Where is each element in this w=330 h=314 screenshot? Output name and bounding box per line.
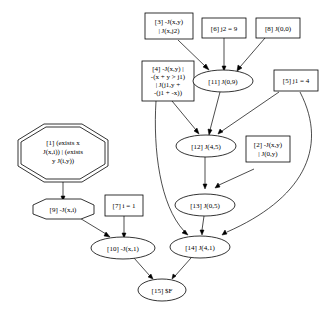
- node-9[interactable]: [9] -J(x,i): [33, 199, 94, 219]
- arrowhead-icon: [172, 274, 176, 279]
- node-2-line-1: [2] -J(x,y): [254, 141, 283, 149]
- node-12[interactable]: [12] J(4,5): [176, 135, 236, 157]
- edge-4-14: [155, 101, 184, 231]
- node-15-label: [15] $F: [152, 287, 173, 295]
- node-7-label: [7] i = 1: [113, 202, 136, 210]
- node-1[interactable]: [1] (exists x J(x,i)) | (exists y J(i,y)…: [18, 124, 108, 182]
- arrowhead-icon: [182, 230, 188, 235]
- edge-11-12: [210, 92, 220, 130]
- node-7[interactable]: [7] i = 1: [105, 195, 143, 216]
- arrowhead-icon: [200, 230, 204, 235]
- node-8-label: [8] J(0,0): [265, 25, 292, 33]
- edge-14-15: [175, 258, 191, 276]
- arrowhead-icon: [215, 183, 220, 188]
- arrowhead-icon: [104, 232, 110, 237]
- edge-4-12: [172, 101, 196, 130]
- node-2[interactable]: [2] -J(x,y) | J(0,y): [246, 136, 290, 162]
- node-14[interactable]: [14] J(4,1): [170, 236, 230, 258]
- node-3-line-1: [3] -J(x,y): [155, 18, 184, 26]
- node-5-label: [5] j1 = 4: [283, 77, 310, 85]
- node-10[interactable]: [10] -J(x,1): [91, 237, 155, 259]
- node-3[interactable]: [3] -J(x,y) | J(x,j2): [145, 13, 193, 39]
- node-12-label: [12] J(4,5): [191, 143, 221, 151]
- node-11[interactable]: [11] J(0,9): [193, 70, 253, 92]
- node-4-line-1: [4] -J(x,y) |: [152, 65, 184, 73]
- node-1-line-3: y J(i,y)): [52, 157, 75, 165]
- node-8[interactable]: [8] J(0,0): [256, 18, 300, 38]
- edge-13-14: [202, 216, 204, 230]
- nodes: [3] -J(x,y) | J(x,j2) [6] j2 = 9 [8] J(0…: [18, 13, 318, 301]
- node-11-label: [11] J(0,9): [208, 78, 238, 86]
- node-2-line-2: | J(0,y): [258, 150, 278, 158]
- node-1-line-1: [1] (exists x: [46, 139, 80, 147]
- node-4-line-2: -(x + y > j1): [151, 73, 186, 81]
- node-9-label: [9] -J(x,i): [50, 206, 77, 214]
- proof-graph: [3] -J(x,y) | J(x,j2) [6] j2 = 9 [8] J(0…: [0, 0, 330, 314]
- node-4-line-3: | J(j1,y +: [156, 81, 181, 89]
- node-4[interactable]: [4] -J(x,y) | -(x + y > j1) | J(j1,y + -…: [142, 61, 194, 101]
- arrowhead-icon: [203, 184, 207, 189]
- node-13-label: [13] J(0,5): [190, 202, 220, 210]
- node-5[interactable]: [5] j1 = 4: [274, 70, 318, 91]
- arrowhead-icon: [218, 129, 223, 134]
- node-13[interactable]: [13] J(0,5): [175, 194, 235, 216]
- node-6[interactable]: [6] j2 = 9: [202, 18, 246, 38]
- edge-10-15: [134, 258, 150, 276]
- node-1-line-2: J(x,i)) | (exists: [43, 148, 83, 156]
- edge-5-12: [222, 92, 279, 131]
- node-14-label: [14] J(4,1): [185, 244, 215, 252]
- edge-9-10: [78, 217, 106, 234]
- node-3-line-2: | J(x,j2): [158, 27, 180, 35]
- edge-8-11: [240, 38, 265, 67]
- node-10-label: [10] -J(x,1): [107, 245, 140, 253]
- node-4-line-4: -(j1 + -x)): [154, 89, 183, 97]
- arrowhead-icon: [222, 230, 227, 235]
- node-15[interactable]: [15] $F: [138, 279, 186, 301]
- edge-2-13: [219, 169, 254, 185]
- node-6-label: [6] j2 = 9: [211, 25, 238, 33]
- arrowhead-icon: [208, 129, 212, 135]
